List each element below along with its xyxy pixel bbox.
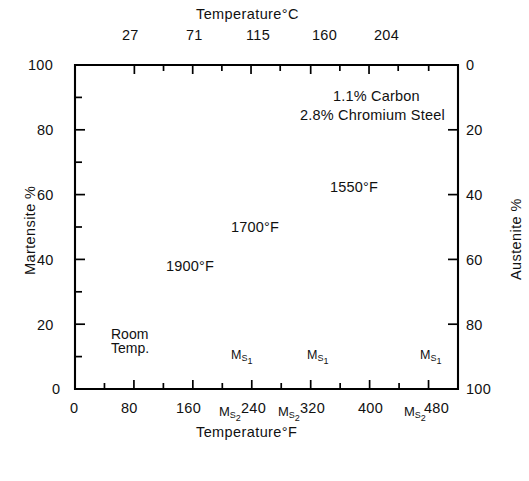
chart-plot-area <box>0 0 529 481</box>
axis-ticks <box>75 65 458 389</box>
figure-root: Temperature°C 27 71 115 160 204 100 80 6… <box>0 0 529 481</box>
plot-frame <box>75 65 458 389</box>
